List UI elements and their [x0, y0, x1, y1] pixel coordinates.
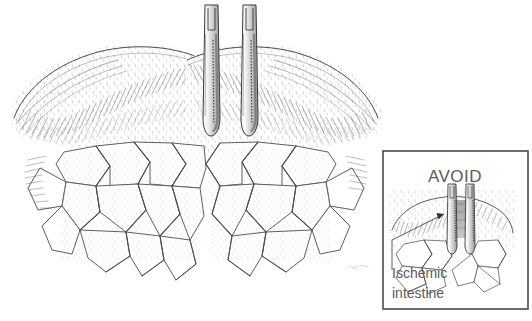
inset-caption-line-2: intestine: [392, 285, 444, 301]
inset-clamp-left: [447, 184, 457, 254]
illustration-root: AVOID: [0, 0, 532, 321]
stapler-clamp-left: [203, 5, 220, 136]
inset-clamp-right: [465, 184, 475, 254]
stapler-clamp-right: [241, 5, 258, 136]
inset-caption-line-1: Ischemic: [392, 265, 447, 281]
surgical-illustration: AVOID: [0, 0, 532, 321]
inset-heading-avoid: AVOID: [428, 167, 482, 186]
avoid-inset-panel: AVOID: [383, 151, 528, 309]
